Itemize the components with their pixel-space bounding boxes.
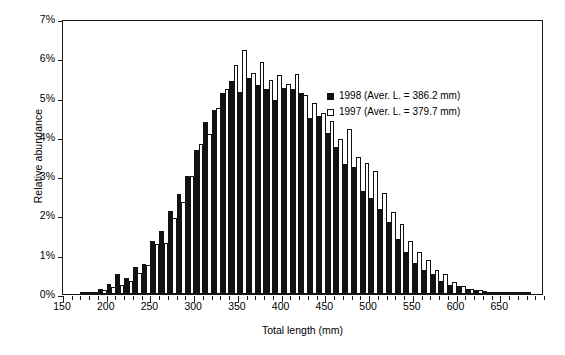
- x-axis-minor-tick: [535, 296, 536, 300]
- bar-group: [527, 21, 536, 294]
- bar-group: [422, 21, 431, 294]
- y-axis-tick: [58, 100, 63, 101]
- legend-item-1998: 1998 (Aver. L. = 386.2 mm): [327, 88, 460, 104]
- x-axis-tick-label: 450: [304, 300, 344, 312]
- bar-group: [448, 21, 457, 294]
- bar-group: [185, 21, 194, 294]
- bar-group: [115, 21, 124, 294]
- bar-group: [457, 21, 466, 294]
- bar-group: [212, 21, 221, 294]
- y-axis-tick: [58, 21, 63, 22]
- bar-group: [360, 21, 369, 294]
- bar-group: [72, 21, 81, 294]
- x-axis-tick-label: 600: [436, 300, 476, 312]
- legend-label-1997: 1997 (Aver. L. = 379.7 mm): [339, 104, 460, 120]
- y-axis-tick: [58, 178, 63, 179]
- bar-group: [290, 21, 299, 294]
- bar-group: [387, 21, 396, 294]
- bar-group: [308, 21, 317, 294]
- bar-group: [168, 21, 177, 294]
- bar-group: [343, 21, 352, 294]
- y-axis-tick: [58, 257, 63, 258]
- bar-group: [177, 21, 186, 294]
- bar-group: [395, 21, 404, 294]
- legend-label-1998: 1998 (Aver. L. = 386.2 mm): [339, 88, 460, 104]
- y-axis-tick-label: 1%: [17, 250, 55, 261]
- bar-group: [124, 21, 133, 294]
- bar-group: [264, 21, 273, 294]
- y-axis-title: Relative abundance: [32, 56, 44, 256]
- y-axis-tick: [58, 139, 63, 140]
- bar-group: [352, 21, 361, 294]
- bar-group: [509, 21, 518, 294]
- bar-group: [255, 21, 264, 294]
- x-axis-tick-label: 350: [217, 300, 257, 312]
- bar-group: [142, 21, 151, 294]
- bar-group: [378, 21, 387, 294]
- y-axis-tick-label: 5%: [17, 93, 55, 104]
- x-axis-tick-label: 500: [348, 300, 388, 312]
- bar-group: [492, 21, 501, 294]
- bar-1998: [527, 292, 532, 294]
- bar-group: [369, 21, 378, 294]
- filled-square-icon: [327, 93, 334, 100]
- bar-group: [465, 21, 474, 294]
- bar-group: [238, 21, 247, 294]
- x-axis-tick-label: 400: [261, 300, 301, 312]
- bar-group: [80, 21, 89, 294]
- bar-group: [247, 21, 256, 294]
- bar-group: [133, 21, 142, 294]
- y-axis-tick-label: 7%: [17, 14, 55, 25]
- x-axis-title: Total length (mm): [62, 324, 543, 336]
- bar-group: [518, 21, 527, 294]
- bar-group: [500, 21, 509, 294]
- bar-group: [325, 21, 334, 294]
- bar-group: [413, 21, 422, 294]
- bar-group: [229, 21, 238, 294]
- y-axis-tick-label: 3%: [17, 171, 55, 182]
- bar-group: [334, 21, 343, 294]
- chart-legend: 1998 (Aver. L. = 386.2 mm) 1997 (Aver. L…: [327, 88, 460, 120]
- chart-container: Relative abundance Total length (mm) 0%1…: [0, 0, 565, 355]
- legend-item-1997: 1997 (Aver. L. = 379.7 mm): [327, 104, 460, 120]
- y-axis-tick: [58, 217, 63, 218]
- bar-group: [203, 21, 212, 294]
- bar-group: [220, 21, 229, 294]
- bar-group: [317, 21, 326, 294]
- x-axis-tick-label: 550: [392, 300, 432, 312]
- bar-group: [194, 21, 203, 294]
- bar-group: [98, 21, 107, 294]
- bar-group: [404, 21, 413, 294]
- y-axis-tick-label: 0%: [17, 289, 55, 300]
- plot-area: [62, 20, 543, 295]
- x-axis-minor-tick: [544, 296, 545, 300]
- bar-group: [273, 21, 282, 294]
- x-axis-tick-label: 150: [42, 300, 82, 312]
- y-axis-tick-label: 2%: [17, 210, 55, 221]
- bar-group: [474, 21, 483, 294]
- bar-group: [107, 21, 116, 294]
- bar-group: [535, 21, 544, 294]
- bar-group: [63, 21, 72, 294]
- x-axis-tick-label: 650: [479, 300, 519, 312]
- bar-group: [299, 21, 308, 294]
- bar-group: [159, 21, 168, 294]
- y-axis-tick: [58, 60, 63, 61]
- bar-group: [483, 21, 492, 294]
- bar-group: [282, 21, 291, 294]
- x-axis-tick-label: 250: [129, 300, 169, 312]
- bar-group: [439, 21, 448, 294]
- bar-group: [430, 21, 439, 294]
- bar-group: [89, 21, 98, 294]
- y-axis-tick-label: 4%: [17, 132, 55, 143]
- x-axis-tick-label: 300: [173, 300, 213, 312]
- open-square-icon: [327, 109, 334, 116]
- bars-layer: [63, 21, 542, 294]
- y-axis-tick-label: 6%: [17, 53, 55, 64]
- x-axis-minor-tick: [527, 296, 528, 300]
- bar-group: [150, 21, 159, 294]
- x-axis-tick-label: 200: [86, 300, 126, 312]
